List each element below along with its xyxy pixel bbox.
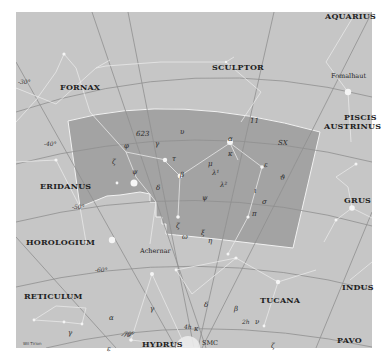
star-designation: 623	[136, 130, 149, 138]
coordinate-label: 4h	[184, 323, 192, 330]
star-designation: δ	[204, 301, 208, 309]
star-name-label: Achernar	[140, 247, 171, 255]
star-name-label: Fomalhaut	[331, 72, 366, 80]
star-designation: β	[180, 171, 184, 179]
constellation-label: ERIDANUS	[40, 182, 91, 191]
star-designation: α	[109, 314, 114, 322]
star-designation: ψ	[132, 168, 138, 176]
star-designation: ζ	[271, 342, 275, 350]
constellation-label: SCULPTOR	[212, 63, 264, 72]
star-designation: ξ	[201, 229, 205, 237]
star-designation: λ¹	[212, 169, 219, 177]
star-designation: ι	[254, 187, 257, 195]
constellation-label: INDUS	[342, 283, 374, 292]
coordinate-label: -70°	[122, 330, 135, 337]
constellation-label: RETICULUM	[24, 292, 83, 301]
star-designation: SX	[278, 139, 288, 147]
constellation-label: PAVO	[337, 336, 362, 345]
coordinate-label: -60°	[95, 266, 108, 273]
star-designation: η	[208, 237, 212, 245]
star-designation: φ	[124, 142, 129, 150]
star-designation: ν	[255, 318, 259, 326]
constellation-label: AQUARIUS	[325, 12, 376, 21]
star-designation: λ²	[220, 181, 227, 189]
star-designation: 11	[250, 117, 259, 125]
coordinate-label: -50°	[72, 203, 85, 210]
star-designation: δ	[156, 184, 160, 192]
star-designation: υ	[180, 128, 184, 136]
star-designation: α	[228, 135, 233, 143]
star-designation: ε	[107, 345, 111, 353]
constellation-label: AUSTRINUS	[324, 122, 381, 131]
star-designation: π	[252, 210, 257, 218]
credit-text: Wil Tirion	[23, 341, 42, 346]
star-designation: τ	[172, 155, 176, 163]
star-designation: ε	[264, 161, 268, 169]
star-designation: ϑ	[280, 174, 285, 182]
constellation-label: HYDRUS	[142, 340, 183, 349]
constellation-label: HOROLOGIUM	[26, 238, 95, 247]
star-designation: β	[234, 305, 238, 313]
star-designation: ζ	[176, 222, 180, 230]
star-designation: κ	[194, 325, 199, 333]
star-designation: ω	[182, 233, 188, 241]
constellation-label: FORNAX	[60, 83, 100, 92]
star-designation: ζ	[112, 158, 116, 166]
star-designation: γ	[150, 305, 154, 313]
star-designation: γ	[68, 329, 72, 337]
star-designation: σ	[262, 198, 267, 206]
star-designation: μ	[208, 160, 213, 168]
constellation-label: GRUS	[344, 196, 371, 205]
deep-sky-label: SMC	[202, 339, 218, 347]
star-designation: γ	[155, 140, 159, 148]
coordinate-label: -40°	[44, 140, 57, 147]
coordinate-label: -30°	[18, 78, 31, 85]
star-designation: ψ	[202, 194, 208, 202]
star-designation: κ	[228, 150, 233, 158]
coordinate-label: 2h	[242, 318, 250, 325]
constellation-label: TUCANA	[260, 296, 300, 305]
